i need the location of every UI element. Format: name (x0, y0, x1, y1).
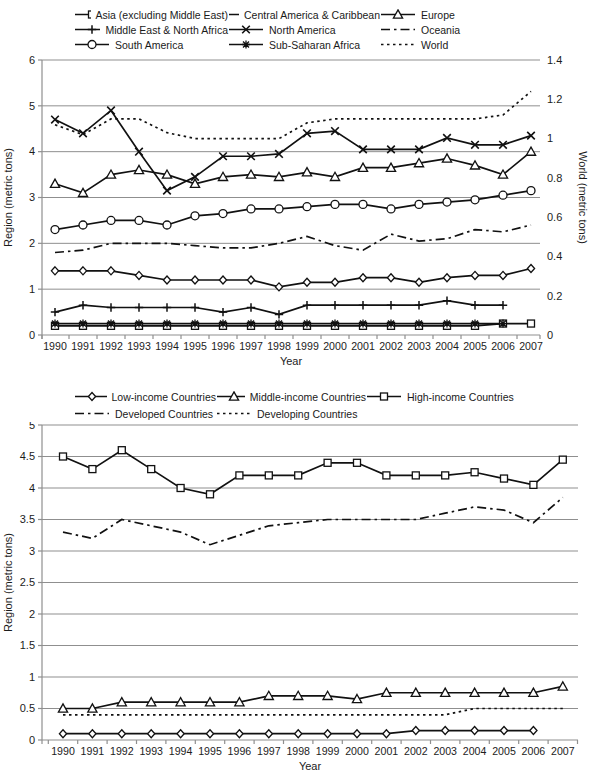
legend-label: High-income Countries (407, 391, 514, 403)
axis-text: 1.5 (20, 639, 35, 651)
legend-diamond-marker-icon (74, 391, 107, 402)
axis-text: 1994 (155, 340, 179, 352)
legend-label: Middle-income Countries (250, 391, 366, 403)
region-chart-plot: 012345600.20.40.60.811.21.41990199119921… (0, 52, 591, 378)
axis-text: 0.6 (547, 211, 562, 223)
series-line (55, 225, 531, 253)
legend-label: Middle East & North Africa (105, 24, 228, 36)
series-europe (50, 147, 535, 196)
legend-triangle-marker-icon (216, 391, 245, 402)
series-central-america-caribbean (51, 265, 534, 291)
axis-text: 1995 (198, 745, 222, 757)
axis-text: 2005 (492, 745, 516, 757)
legend-diamond-marker-icon (228, 9, 239, 20)
axis-text: 1992 (99, 340, 123, 352)
axis-text: World (metric tons) (577, 151, 589, 244)
series-line (55, 269, 531, 287)
legend-triangle-marker-icon (380, 9, 416, 20)
axis-text: 1993 (139, 745, 163, 757)
axis-text: 1998 (286, 745, 310, 757)
legend-plus-marker-icon (74, 24, 100, 35)
legend-label: North America (269, 24, 336, 36)
axis-text: Region (metric tons) (2, 148, 14, 247)
axis-text: 4 (29, 145, 35, 157)
legend-item-developing-countries: Developing Countries (216, 405, 366, 422)
legend-item-south-america: South America (74, 37, 228, 52)
legend-label: Europe (421, 9, 455, 21)
series-line (63, 709, 563, 715)
series-oceania (55, 225, 531, 253)
series-low-income-countries (59, 727, 537, 738)
axis-text: Year (299, 760, 322, 772)
axis-text: 1 (29, 283, 35, 295)
legend-item-oceania: Oceania (380, 22, 591, 37)
series-middle-east-north-africa (51, 296, 507, 318)
axis-text: 6 (29, 54, 35, 66)
axis-text: 2002 (379, 340, 403, 352)
legend-item-north-america: North America (228, 22, 380, 37)
series-world (55, 91, 531, 138)
axis-text: 2004 (463, 745, 487, 757)
axis-text: 1.2 (547, 93, 562, 105)
legend-dotted-line-icon (380, 39, 416, 50)
axis-text: 2003 (433, 745, 457, 757)
series-developing-countries (63, 709, 563, 715)
legend-label: South America (115, 39, 183, 51)
axis-text: Year (280, 355, 303, 367)
axis-text: 2001 (351, 340, 375, 352)
series-line (63, 686, 563, 708)
axis-text: 2007 (519, 340, 543, 352)
series-line (55, 110, 531, 190)
axis-text: 2004 (435, 340, 459, 352)
axis-text: 0 (29, 329, 35, 341)
axis-text: 1 (29, 671, 35, 683)
legend-x-marker-icon (228, 24, 264, 35)
axis-text: 2005 (463, 340, 487, 352)
axis-text: 2000 (345, 745, 369, 757)
axis-text: 1997 (239, 340, 263, 352)
axis-text: 1 (547, 132, 553, 144)
axis-text: 1.4 (547, 54, 562, 66)
legend-label: Oceania (421, 24, 460, 36)
axis-text: 2 (29, 237, 35, 249)
legend-item-world: World (380, 37, 591, 52)
series-line (55, 152, 531, 193)
legend-item-developed-countries: Developed Countries (74, 405, 216, 422)
axis-text: 3.5 (20, 513, 35, 525)
axis-text: 4.5 (20, 450, 35, 462)
legend-item-middle-east-north-africa: Middle East & North Africa (74, 22, 228, 37)
axis-text: 1994 (169, 745, 193, 757)
axis-text: 1991 (81, 745, 105, 757)
series-high-income-countries (60, 447, 567, 498)
series-developed-countries (63, 497, 563, 544)
axis-text: 1995 (183, 340, 207, 352)
legend-star-marker-icon (228, 39, 264, 50)
legend-dotted-line-icon (216, 408, 252, 419)
series-line (55, 191, 531, 230)
axis-text: 0.4 (547, 250, 562, 262)
axis-text: 4 (29, 482, 35, 494)
income-chart-legend: Low-income CountriesMiddle-income Countr… (0, 378, 591, 422)
legend-item-low-income-countries: Low-income Countries (74, 388, 216, 405)
legend-label: Developing Countries (257, 408, 357, 420)
axis-text: 1990 (51, 745, 75, 757)
legend-dashdot-line-icon (74, 408, 110, 419)
series-middle-income-countries (58, 682, 567, 712)
legend-circle-marker-icon (74, 39, 110, 50)
axis-text: 2000 (323, 340, 347, 352)
axis-text: 5 (29, 422, 35, 431)
legend-dashdot-line-icon (380, 24, 416, 35)
figure: Asia (excluding Middle East)Central Amer… (0, 0, 591, 780)
axis-text: 2001 (375, 745, 399, 757)
series-north-america (51, 107, 535, 195)
legend-item-middle-income-countries: Middle-income Countries (216, 388, 366, 405)
axis-text: 1997 (257, 745, 281, 757)
axis-text: 1996 (228, 745, 252, 757)
legend-square-marker-icon (74, 9, 91, 20)
legend-item-asia-excluding-middle-east: Asia (excluding Middle East) (74, 7, 228, 22)
axis-text: 2007 (551, 745, 575, 757)
region-chart-legend: Asia (excluding Middle East)Central Amer… (0, 0, 591, 52)
legend-label: Asia (excluding Middle East) (96, 9, 228, 21)
axis-text: 1992 (110, 745, 134, 757)
legend-square-marker-icon (366, 391, 402, 402)
